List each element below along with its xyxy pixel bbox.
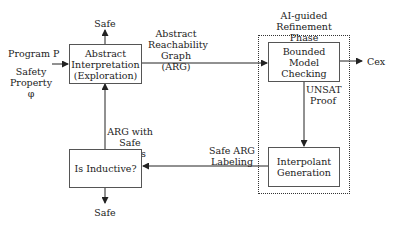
bounded-model-checking-node: Bounded Model Checking [268, 42, 340, 82]
unsat-proof-label: UNSAT Proof [306, 84, 340, 106]
refinement-phase-label: AI-guided Refinement Phase [262, 10, 346, 43]
abstract-interpretation-node: Abstract Interpretation (Exploration) [69, 44, 142, 84]
interpolant-generation-node: Interpolant Generation [268, 147, 340, 187]
safe-arg-labeling-label: Safe ARG Labeling [208, 145, 256, 167]
arg-label: Abstract Reachability Graph (ARG) [148, 28, 204, 72]
is-inductive-label: Is Inductive? [75, 163, 137, 174]
interpolant-generation-label: Interpolant Generation [277, 156, 331, 178]
program-label: Program P [8, 48, 58, 59]
property-label: Safety Property φ [6, 66, 56, 99]
cex-label: Cex [364, 56, 388, 67]
is-inductive-node: Is Inductive? [69, 149, 142, 188]
safe-top-label: Safe [92, 18, 118, 29]
bounded-model-checking-label: Bounded Model Checking [281, 46, 326, 79]
abstract-interpretation-label: Abstract Interpretation (Exploration) [71, 48, 139, 81]
safe-bottom-label: Safe [92, 207, 118, 218]
